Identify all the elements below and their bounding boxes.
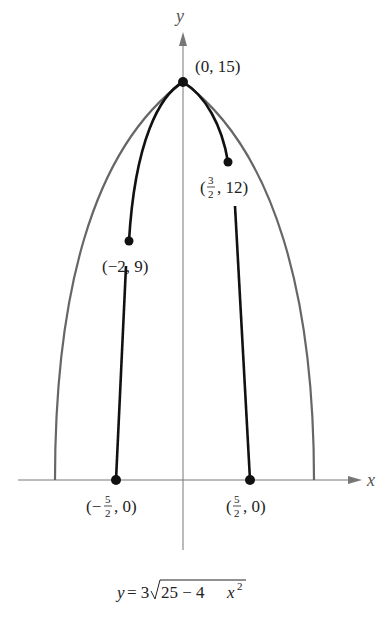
point-right [224,158,233,167]
svg-text:2: 2 [208,188,214,200]
point-x-right [245,475,255,485]
point-x-left [111,475,121,485]
svg-text:2: 2 [237,580,243,592]
svg-text:5: 5 [105,493,111,505]
y-axis-arrow-icon [179,32,187,46]
label-x-right: ( 5 2 , 0) [226,493,266,519]
point-left [125,237,134,246]
figure: y x (0, 15) ( 3 2 , 12) (−2, 9) (− 5 2 ,… [0,0,392,623]
graph: y x (0, 15) ( 3 2 , 12) (−2, 9) (− 5 2 ,… [0,0,392,623]
function-curve-right-upper [183,82,228,162]
svg-text:2: 2 [234,507,240,519]
svg-text:5: 5 [234,493,240,505]
svg-text:, 12): , 12) [217,178,248,197]
x-axis-label: x [366,470,375,490]
label-x-left: (− 5 2 , 0) [86,493,137,519]
svg-text:(−: (− [86,497,101,516]
svg-text:(: ( [200,178,206,197]
svg-text:, 0): , 0) [243,497,266,516]
function-curve-left-lower [116,266,126,480]
equation-caption: y = 3 25 − 4 x 2 [115,580,246,602]
svg-text:25 − 4: 25 − 4 [161,583,205,602]
y-axis-label: y [174,6,184,26]
label-left: (−2, 9) [102,257,148,276]
point-top [178,77,188,87]
svg-text:, 0): , 0) [114,497,137,516]
svg-text:2: 2 [105,507,111,519]
svg-text:3: 3 [208,174,214,186]
svg-text:= 3: = 3 [127,583,149,602]
label-right: ( 3 2 , 12) [200,174,248,200]
svg-text:y: y [115,583,125,602]
svg-text:(: ( [226,497,232,516]
label-top: (0, 15) [195,57,240,76]
function-curve-right-lower [235,206,250,480]
x-axis-arrow-icon [348,476,362,484]
outer-curve [55,82,314,480]
svg-text:x: x [226,583,235,602]
